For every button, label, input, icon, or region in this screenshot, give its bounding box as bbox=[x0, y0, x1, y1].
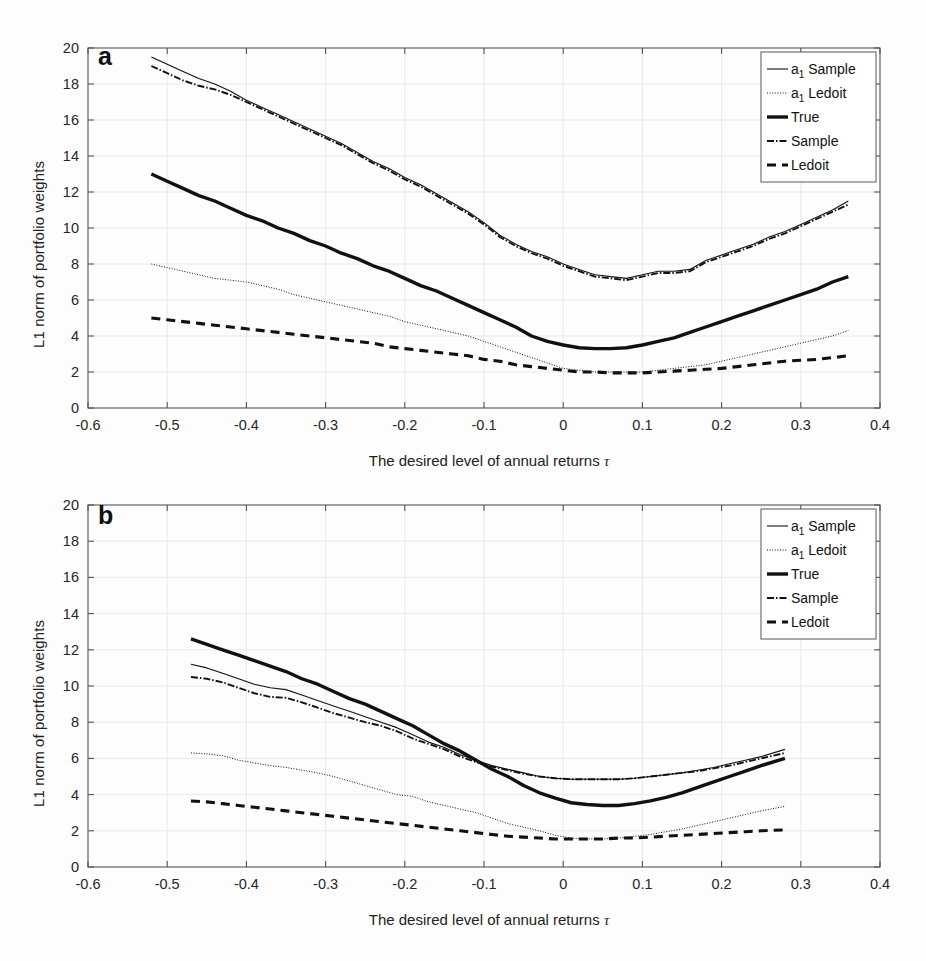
x-tick-label: -0.1 bbox=[472, 876, 497, 892]
x-tick-label: 0 bbox=[559, 417, 567, 433]
y-tick-label: 2 bbox=[71, 364, 79, 380]
curve-a1-sample bbox=[191, 664, 785, 779]
y-tick-label: 6 bbox=[71, 750, 79, 766]
x-tick-label: -0.2 bbox=[392, 876, 417, 892]
x-tick-label: -0.5 bbox=[155, 876, 180, 892]
x-tick-label: 0 bbox=[559, 876, 567, 892]
y-tick-label: 20 bbox=[63, 40, 79, 56]
y-tick-label: 16 bbox=[63, 569, 79, 585]
y-tick-label: 8 bbox=[71, 256, 79, 272]
x-tick-label: 0.2 bbox=[712, 417, 732, 433]
y-tick-label: 12 bbox=[63, 184, 79, 200]
y-tick-label: 18 bbox=[63, 76, 79, 92]
y-tick-label: 8 bbox=[71, 714, 79, 730]
y-tick-label: 16 bbox=[63, 112, 79, 128]
y-tick-label: 18 bbox=[63, 533, 79, 549]
x-tick-label: 0.3 bbox=[791, 417, 811, 433]
x-tick-label: 0.4 bbox=[870, 876, 890, 892]
legend-label[interactable]: Sample bbox=[791, 133, 839, 149]
figure-container: -0.6-0.5-0.4-0.3-0.2-0.100.10.20.30.4024… bbox=[0, 0, 926, 961]
y-tick-label: 20 bbox=[63, 497, 79, 513]
x-tick-label: -0.3 bbox=[313, 876, 338, 892]
panel-a-letter: a bbox=[98, 42, 112, 71]
y-tick-label: 10 bbox=[63, 678, 79, 694]
curve-ledoit bbox=[191, 801, 785, 839]
legend-label[interactable]: True bbox=[791, 109, 819, 125]
panel-b-ylabel: L1 norm of portfolio weights bbox=[30, 620, 47, 807]
panel-b-xlabel: The desired level of annual returns τ bbox=[26, 911, 926, 929]
y-tick-label: 14 bbox=[63, 606, 79, 622]
panel-b-xlabel-text: The desired level of annual returns bbox=[369, 911, 604, 928]
panel-b-letter: b bbox=[98, 501, 113, 530]
panel-b: -0.6-0.5-0.4-0.3-0.2-0.100.10.20.30.4024… bbox=[0, 455, 926, 955]
x-tick-label: -0.4 bbox=[234, 876, 259, 892]
y-tick-label: 14 bbox=[63, 148, 79, 164]
y-tick-label: 2 bbox=[71, 823, 79, 839]
y-tick-label: 0 bbox=[71, 400, 79, 416]
x-tick-label: -0.2 bbox=[392, 417, 417, 433]
curve-ledoit bbox=[151, 318, 848, 373]
x-tick-label: 0.3 bbox=[791, 876, 811, 892]
y-tick-label: 10 bbox=[63, 220, 79, 236]
legend-label[interactable]: True bbox=[791, 566, 819, 582]
x-tick-label: 0.4 bbox=[870, 417, 890, 433]
y-tick-label: 12 bbox=[63, 642, 79, 658]
x-tick-label: -0.5 bbox=[155, 417, 180, 433]
curve-a1-sample bbox=[151, 57, 848, 278]
curve-true bbox=[151, 174, 848, 349]
panel-b-plot: -0.6-0.5-0.4-0.3-0.2-0.100.10.20.30.4024… bbox=[0, 455, 926, 955]
x-tick-label: -0.4 bbox=[234, 417, 259, 433]
x-tick-label: 0.1 bbox=[632, 876, 652, 892]
x-tick-label: -0.6 bbox=[76, 417, 101, 433]
panel-b-xlabel-tau: τ bbox=[604, 912, 609, 928]
legend-label[interactable]: Sample bbox=[791, 590, 839, 606]
y-tick-label: 0 bbox=[71, 859, 79, 875]
panel-a: -0.6-0.5-0.4-0.3-0.2-0.100.10.20.30.4024… bbox=[0, 0, 926, 480]
legend-label[interactable]: Ledoit bbox=[791, 614, 829, 630]
x-tick-label: -0.6 bbox=[76, 876, 101, 892]
curve-sample bbox=[151, 66, 848, 280]
x-tick-label: -0.3 bbox=[313, 417, 338, 433]
legend-label[interactable]: Ledoit bbox=[791, 157, 829, 173]
x-tick-label: 0.2 bbox=[712, 876, 732, 892]
x-tick-label: -0.1 bbox=[472, 417, 497, 433]
y-tick-label: 6 bbox=[71, 292, 79, 308]
y-tick-label: 4 bbox=[71, 328, 79, 344]
y-tick-label: 4 bbox=[71, 787, 79, 803]
panel-a-ylabel: L1 norm of portfolio weights bbox=[30, 161, 47, 348]
panel-a-plot: -0.6-0.5-0.4-0.3-0.2-0.100.10.20.30.4024… bbox=[0, 0, 926, 480]
x-tick-label: 0.1 bbox=[632, 417, 652, 433]
